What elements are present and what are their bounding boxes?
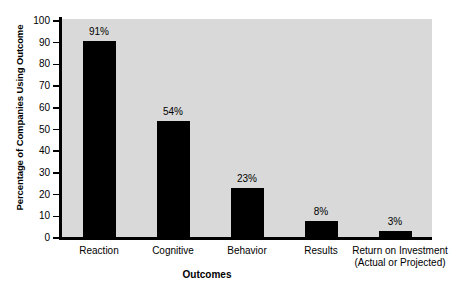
x-axis-category-label: Return on Investment(Actual or Projected… [341, 245, 458, 269]
x-axis-category-label-line: (Actual or Projected) [341, 257, 458, 269]
x-axis-category-label-line: Return on Investment [341, 245, 458, 257]
bar-chart: Percentage of Companies Using Outcome 01… [0, 0, 458, 287]
y-axis-tick [53, 172, 60, 174]
y-axis-tick [53, 129, 60, 131]
y-axis-tick-label: 40 [10, 146, 50, 156]
y-axis-tick [53, 85, 60, 87]
bar [83, 41, 116, 238]
bar [231, 188, 264, 238]
bar-value-label: 54% [143, 107, 203, 117]
y-axis-tick-label: 60 [10, 103, 50, 113]
bar-value-label: 3% [365, 217, 425, 227]
bar-value-label: 91% [69, 27, 129, 37]
bar-value-label: 23% [217, 174, 277, 184]
y-axis-tick-label: 30 [10, 168, 50, 178]
bar [157, 121, 190, 238]
bar [379, 231, 412, 238]
bar [305, 221, 338, 238]
y-axis-tick [53, 150, 60, 152]
bar-value-label: 8% [291, 207, 351, 217]
y-axis-tick-label: 50 [10, 125, 50, 135]
y-axis-tick [53, 107, 60, 109]
y-axis-tick [53, 42, 60, 44]
y-axis-tick [53, 216, 60, 218]
y-axis-tick [53, 194, 60, 196]
y-axis-tick [53, 64, 60, 66]
y-axis-tick-label: 0 [10, 233, 50, 243]
x-axis-title: Outcomes [62, 269, 352, 280]
y-axis-tick-label: 100 [10, 16, 50, 26]
y-axis-tick-label: 90 [10, 38, 50, 48]
y-axis-tick [53, 237, 60, 239]
y-axis-tick-label: 70 [10, 81, 50, 91]
y-axis-tick-label: 80 [10, 59, 50, 69]
y-axis-tick [53, 20, 60, 22]
y-axis-tick-label: 10 [10, 211, 50, 221]
y-axis-tick-label: 20 [10, 190, 50, 200]
